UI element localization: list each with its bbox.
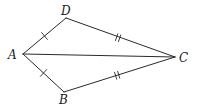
kite-diagram: A D B C [0, 0, 198, 108]
vertex-label-B: B [58, 93, 68, 107]
edge-CB [64, 57, 175, 92]
vertex-label-D: D [60, 4, 71, 18]
diagonal-AC [23, 54, 175, 57]
tick-mark-AD [41, 32, 47, 39]
vertex-label-A: A [7, 48, 17, 62]
vertex-label-C: C [179, 51, 188, 65]
double-tick-mark-DC [115, 34, 121, 43]
edge-DC [66, 18, 175, 57]
